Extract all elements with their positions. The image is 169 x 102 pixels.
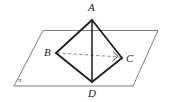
geometry-figure: A B C D π — [0, 0, 169, 102]
vertex-label-b: B — [44, 47, 51, 58]
vertex-label-c: C — [126, 53, 133, 64]
vertex-label-d: D — [88, 88, 96, 99]
plane-label-pi: π — [18, 77, 22, 84]
geometry-canvas — [0, 0, 169, 102]
vertex-label-a: A — [88, 2, 95, 13]
